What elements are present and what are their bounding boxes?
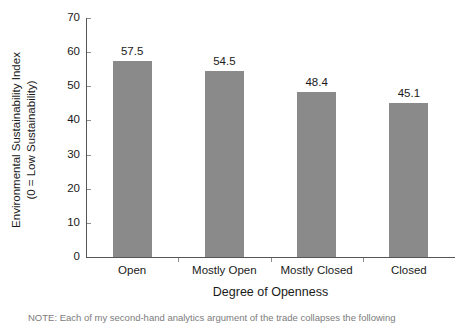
x-tick-mark <box>271 258 272 262</box>
bar <box>205 71 244 257</box>
y-axis-title-line2: (0 = Low Sustainability) <box>24 52 39 228</box>
y-tick-label: 40 <box>54 114 80 126</box>
y-tick-label: 0 <box>54 251 80 263</box>
y-tick-label: 50 <box>54 80 80 92</box>
bar-value-label: 48.4 <box>287 77 347 89</box>
y-tick-label: 70 <box>54 12 80 24</box>
x-axis-title: Degree of Openness <box>86 285 455 299</box>
bar <box>389 103 428 257</box>
plot-area: 57.554.548.445.1 <box>86 18 455 257</box>
y-tick-label: 10 <box>54 217 80 229</box>
bar-value-label: 57.5 <box>102 46 162 58</box>
y-axis-title: Environmental Sustainability Index (0 = … <box>2 14 46 266</box>
bar <box>297 92 336 257</box>
y-tick-label: 60 <box>54 46 80 58</box>
bar <box>113 61 152 257</box>
x-tick-label: Closed <box>354 264 464 277</box>
y-tick-label: 30 <box>54 149 80 161</box>
x-tick-mark <box>178 258 179 262</box>
figure-caption: NOTE: Each of my second-hand analytics a… <box>28 312 466 323</box>
y-tick-label: 20 <box>54 183 80 195</box>
x-tick-mark <box>363 258 364 262</box>
y-axis-title-line1: Environmental Sustainability Index <box>10 52 22 228</box>
bar-value-label: 54.5 <box>194 56 254 68</box>
bar-value-label: 45.1 <box>379 88 439 100</box>
